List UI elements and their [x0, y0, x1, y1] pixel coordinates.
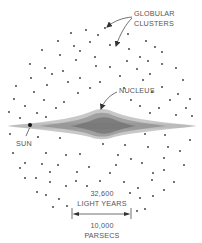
galactic-disk: [8, 109, 196, 139]
globular-label-line2: CLUSTERS: [134, 19, 174, 28]
scale-arrow-left: [73, 212, 80, 216]
globular-arrow-2: [116, 18, 132, 46]
nucleus-callout: NUCLEUS: [101, 86, 155, 109]
scale-arrow-right: [124, 212, 131, 216]
sun-dot: [28, 123, 32, 127]
galaxy-diagram: NUCLEUS GLOBULAR CLUSTERS SUN 32,600 LIG…: [0, 0, 202, 243]
globular-clusters-callout: GLOBULAR CLUSTERS: [107, 9, 175, 46]
nucleus-arrow: [101, 92, 117, 109]
sun-leader-line: [26, 128, 30, 136]
distance-ly-value: 32,600: [90, 189, 113, 198]
distance-ly-unit: LIGHT YEARS: [77, 199, 126, 208]
scale-bar: 32,600 LIGHT YEARS 10,000 PARSECS: [72, 189, 131, 240]
distance-pc-unit: PARSECS: [84, 231, 119, 240]
nucleus-label: NUCLEUS: [119, 86, 155, 95]
sun-label: SUN: [16, 139, 32, 148]
distance-pc-value: 10,000: [90, 221, 113, 230]
globular-label-line1: GLOBULAR: [134, 9, 175, 18]
